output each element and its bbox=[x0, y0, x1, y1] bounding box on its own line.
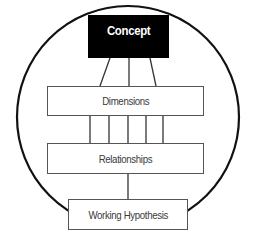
concept-label: Concept bbox=[107, 23, 150, 38]
working-hypothesis-node: Working Hypothesis bbox=[68, 199, 188, 230]
dimensions-node: Dimensions bbox=[47, 86, 204, 116]
relationships-label: Relationships bbox=[99, 153, 153, 165]
dimension-relationship-connectors bbox=[90, 116, 163, 143]
dimensions-label: Dimensions bbox=[102, 95, 149, 107]
relationships-node: Relationships bbox=[47, 143, 204, 174]
working-hypothesis-label: Working Hypothesis bbox=[88, 209, 168, 221]
concept-node: Concept bbox=[88, 15, 169, 58]
concept-dimension-connectors bbox=[100, 58, 156, 86]
